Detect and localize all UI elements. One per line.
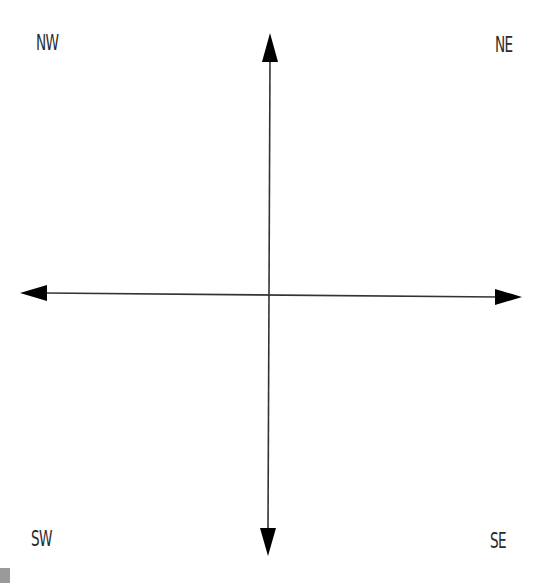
- label-northwest: NW: [36, 32, 58, 54]
- arrow-left-icon: [20, 285, 47, 301]
- arrow-right-icon: [495, 289, 522, 305]
- arrow-down-icon: [260, 528, 276, 556]
- label-southwest: SW: [31, 528, 52, 550]
- label-southeast: SE: [490, 530, 506, 552]
- arrow-up-icon: [262, 33, 278, 62]
- compass-diagram: NW NE SW SE: [0, 0, 540, 583]
- horizontal-axis-line: [45, 293, 497, 297]
- label-northeast: NE: [495, 34, 513, 56]
- quadrant-axes: [0, 0, 540, 583]
- corner-thumbnail-artifact: [0, 568, 10, 583]
